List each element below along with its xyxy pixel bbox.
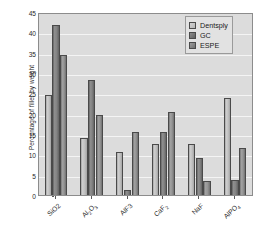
x-tick-label-NaF: NaF: [178, 202, 205, 227]
y-tick-label-0: 0: [16, 193, 36, 200]
legend-swatch-icon-gc: [189, 32, 196, 39]
bar-NaF-GC: [196, 158, 203, 195]
y-axis-tick-labels: 051015202530354045: [16, 0, 36, 236]
x-tick-mark-CaF2: [162, 196, 163, 199]
bar-SiO2-ESPE: [60, 55, 67, 195]
y-tick-label-10: 10: [16, 152, 36, 159]
bar-NaF-ESPE: [203, 181, 210, 195]
x-tick-mark-AlPO4: [234, 196, 235, 199]
y-tick-label-25: 25: [16, 91, 36, 98]
chart-legend: Dentsply GC ESPE: [185, 16, 233, 54]
legend-swatch-icon-espe: [189, 42, 196, 49]
y-tick-label-40: 40: [16, 30, 36, 37]
bar-AlF3-ESPE: [132, 132, 139, 195]
bar-chart: Percentage of filler by weight 051015202…: [0, 0, 265, 236]
bar-SiO2-Dentsply: [45, 95, 52, 195]
y-tick-label-5: 5: [16, 172, 36, 179]
legend-item-2[interactable]: ESPE: [189, 40, 228, 50]
x-tick-mark-AlF3: [127, 196, 128, 199]
x-tick-label-AlPO4: AlPO4: [214, 202, 241, 227]
bar-Al2O3-ESPE: [96, 115, 103, 195]
legend-swatch-icon-dentsply: [189, 22, 196, 29]
x-tick-label-SiO2: SiO2: [35, 202, 62, 227]
y-tick-label-45: 45: [16, 10, 36, 17]
bar-AlF3-GC: [124, 190, 131, 195]
bar-CaF2-GC: [160, 132, 167, 195]
bar-NaF-Dentsply: [188, 144, 195, 195]
bar-AlPO4-GC: [231, 180, 238, 195]
legend-label-espe: ESPE: [200, 41, 219, 50]
legend-label-dentsply: Dentsply: [200, 21, 228, 30]
y-tick-label-30: 30: [16, 71, 36, 78]
bar-CaF2-ESPE: [168, 112, 175, 195]
bar-AlPO4-ESPE: [239, 148, 246, 195]
bar-CaF2-Dentsply: [152, 144, 159, 195]
x-axis-tick-labels: SiO2Al2O3AlF3CaF2NaFAlPO4: [38, 196, 253, 236]
y-tick-label-15: 15: [16, 132, 36, 139]
x-tick-label-AlF3: AlF3: [106, 202, 133, 227]
x-tick-label-Al2O3: Al2O3: [70, 202, 97, 227]
x-tick-label-CaF2: CaF2: [142, 202, 169, 227]
x-tick-mark-NaF: [198, 196, 199, 199]
bar-Al2O3-GC: [88, 80, 95, 195]
x-tick-mark-Al2O3: [91, 196, 92, 199]
bar-SiO2-GC: [52, 25, 59, 195]
y-tick-label-35: 35: [16, 50, 36, 57]
legend-item-0[interactable]: Dentsply: [189, 20, 228, 30]
legend-item-1[interactable]: GC: [189, 30, 228, 40]
bar-Al2O3-Dentsply: [80, 138, 87, 195]
legend-label-gc: GC: [200, 31, 211, 40]
y-tick-label-20: 20: [16, 111, 36, 118]
bar-AlPO4-Dentsply: [224, 98, 231, 195]
x-tick-mark-SiO2: [55, 196, 56, 199]
bar-AlF3-Dentsply: [116, 152, 123, 196]
